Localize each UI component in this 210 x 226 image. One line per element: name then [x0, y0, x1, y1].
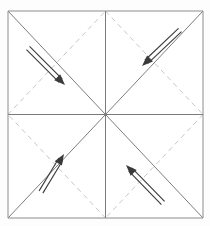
crease-pattern-figure: Origami crease pattern: square sheet wit… — [0, 0, 210, 226]
crease-pattern-canvas — [0, 0, 210, 226]
